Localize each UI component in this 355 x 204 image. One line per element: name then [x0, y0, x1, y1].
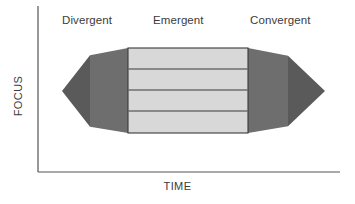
double-diamond-diagram	[0, 0, 355, 204]
phase-label-convergent: Convergent	[250, 14, 310, 26]
divergent-triangle	[62, 48, 128, 133]
convergent-triangle-outer	[288, 56, 325, 126]
phase-label-emergent: Emergent	[153, 14, 204, 26]
diagram-canvas: Divergent Emergent Convergent FOCUS TIME	[0, 0, 355, 204]
phase-label-divergent: Divergent	[62, 14, 112, 26]
x-axis-label: TIME	[0, 180, 355, 192]
y-axis-label-wrap: FOCUS	[6, 66, 30, 130]
y-axis-label: FOCUS	[12, 62, 24, 130]
emergent-box	[128, 48, 248, 133]
convergent-triangle-inner	[248, 48, 288, 133]
divergent-triangle-inner	[90, 48, 128, 133]
divergent-triangle-outer	[62, 55, 90, 127]
convergent-triangle	[248, 48, 325, 133]
